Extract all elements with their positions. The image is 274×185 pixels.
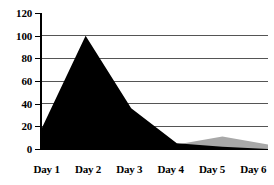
- y-tick-mark: [35, 36, 41, 37]
- y-tick-mark: [35, 58, 41, 59]
- black-series-area: [40, 36, 268, 149]
- plot-svg: [40, 13, 268, 149]
- y-tick-label: 120: [0, 8, 32, 19]
- x-axis-line: [40, 149, 268, 150]
- y-tick-label: 80: [0, 53, 32, 64]
- x-tick-label: Day 3: [109, 163, 150, 179]
- area-chart: 120100806040200 Day 1Day 2Day 3Day 4Day …: [0, 0, 274, 185]
- x-tick-label: Day 6: [233, 163, 274, 179]
- x-axis-labels: Day 1Day 2Day 3Day 4Day 5Day 6: [26, 163, 274, 179]
- x-tick-label: Day 5: [191, 163, 232, 179]
- y-tick-mark: [35, 104, 41, 105]
- x-tick-label: Day 1: [26, 163, 67, 179]
- x-tick-label: Day 4: [150, 163, 191, 179]
- y-tick-mark: [35, 126, 41, 127]
- y-tick-label: 100: [0, 31, 32, 42]
- y-tick-mark: [35, 13, 41, 14]
- x-tick-label: Day 2: [67, 163, 108, 179]
- plot-area: [40, 13, 268, 149]
- y-tick-label: 20: [0, 121, 32, 132]
- y-tick-label: 0: [0, 144, 32, 155]
- y-tick-mark: [35, 81, 41, 82]
- y-tick-label: 60: [0, 76, 32, 87]
- y-tick-label: 40: [0, 99, 32, 110]
